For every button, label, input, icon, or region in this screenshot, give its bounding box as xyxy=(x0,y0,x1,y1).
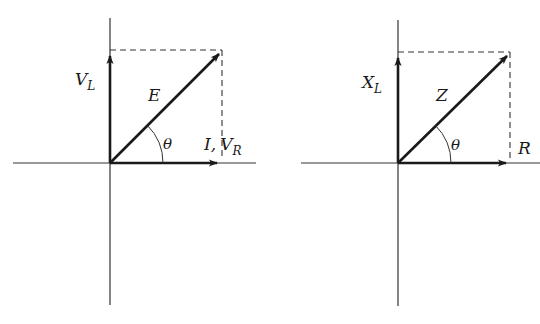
r-label: R xyxy=(517,138,531,158)
right-impedance-diagram: XL Z θ R xyxy=(301,20,540,306)
right-theta-label: θ xyxy=(451,136,460,154)
left-phasor-diagram: VL E θ I,VR xyxy=(13,18,256,305)
vl-label: VL xyxy=(75,69,95,93)
e-label: E xyxy=(147,85,161,105)
left-theta-label: θ xyxy=(163,135,172,153)
z-label: Z xyxy=(435,85,449,105)
left-angle-arc xyxy=(148,126,164,164)
right-angle-arc xyxy=(436,126,452,164)
phasor-diagrams: VL E θ I,VR XL Z θ R xyxy=(0,0,540,324)
xl-label: XL xyxy=(360,72,382,96)
